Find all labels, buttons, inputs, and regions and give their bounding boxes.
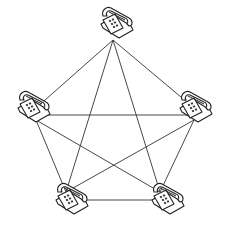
telephone-nodes	[18, 7, 212, 214]
edge-left-bottom-left	[36, 120, 66, 192]
connection-lines	[36, 40, 194, 200]
mesh-network-diagram	[0, 0, 235, 234]
telephone-icon	[101, 7, 133, 38]
edge-right-bottom-right	[160, 120, 194, 192]
telephone-icon	[180, 91, 212, 122]
telephone-icon	[18, 91, 50, 122]
telephone-icon	[152, 183, 184, 214]
telephone-icon	[56, 183, 88, 214]
edge-top-left	[36, 40, 113, 108]
